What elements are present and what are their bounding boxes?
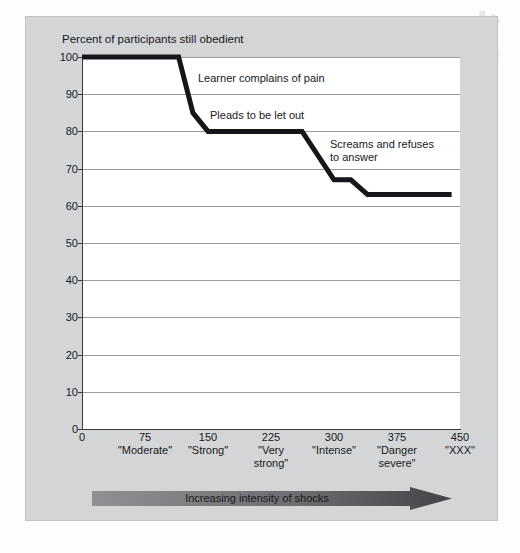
gridline xyxy=(82,94,460,95)
y-tick-mark xyxy=(78,131,82,132)
y-tick-label: 20 xyxy=(44,349,78,361)
y-tick-mark xyxy=(78,392,82,393)
y-tick-label: 40 xyxy=(44,274,78,286)
x-axis-line xyxy=(82,429,461,430)
x-axis-ticks: 075"Moderate"150"Strong"225"Very strong"… xyxy=(0,431,520,491)
gridline xyxy=(82,243,460,244)
chart-annotation: Learner complains of pain xyxy=(198,72,325,85)
y-tick-mark xyxy=(78,206,82,207)
x-tick-descriptor: "XXX" xyxy=(415,444,505,457)
gridline xyxy=(82,169,460,170)
chart-title: Percent of participants still obedient xyxy=(62,33,244,45)
y-tick-mark xyxy=(78,169,82,170)
gridline xyxy=(82,355,460,356)
y-tick-mark xyxy=(78,94,82,95)
y-tick-mark xyxy=(78,429,82,430)
chart-annotation: Screams and refuses to answer xyxy=(330,138,434,164)
gridline xyxy=(82,131,460,132)
y-tick-mark xyxy=(78,280,82,281)
x-tick-label: 450"XXX" xyxy=(415,431,505,457)
intensity-arrow: Increasing intensity of shocks xyxy=(92,487,452,515)
y-tick-label: 60 xyxy=(44,200,78,212)
y-tick-label: 50 xyxy=(44,237,78,249)
y-tick-label: 30 xyxy=(44,311,78,323)
gridline xyxy=(82,206,460,207)
y-tick-mark xyxy=(78,317,82,318)
gridline xyxy=(82,57,460,58)
x-tick-value: 450 xyxy=(415,431,505,444)
y-tick-label: 80 xyxy=(44,125,78,137)
y-tick-label: 100 xyxy=(44,51,78,63)
gridline xyxy=(82,392,460,393)
y-axis-ticks: 0102030405060708090100 xyxy=(40,57,78,430)
y-axis-line xyxy=(82,57,83,430)
y-tick-mark xyxy=(78,355,82,356)
y-tick-mark xyxy=(78,57,82,58)
gridline xyxy=(82,317,460,318)
arrow-label: Increasing intensity of shocks xyxy=(92,492,422,504)
chart-annotation: Pleads to be let out xyxy=(210,109,304,122)
gridline xyxy=(82,280,460,281)
y-tick-mark xyxy=(78,243,82,244)
y-tick-label: 90 xyxy=(44,88,78,100)
y-tick-label: 70 xyxy=(44,163,78,175)
y-tick-label: 10 xyxy=(44,386,78,398)
